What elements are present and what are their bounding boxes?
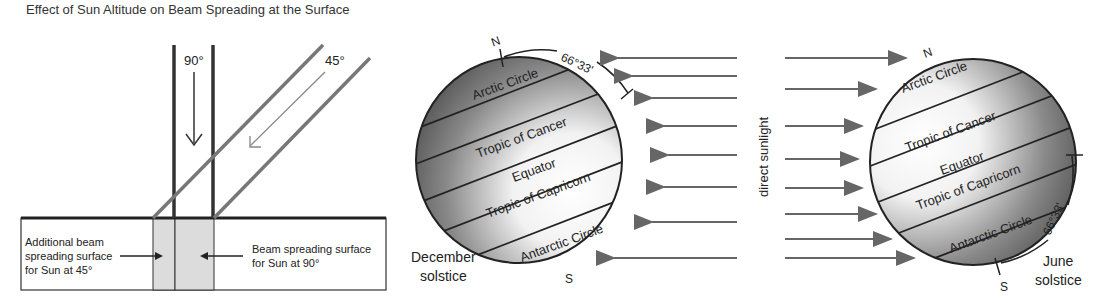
shaded-surface-90 bbox=[175, 218, 214, 290]
diagram-canvas: 90° 45° Additional beam spreading surfac… bbox=[0, 0, 1103, 303]
south-label: S bbox=[565, 272, 573, 286]
june-caption: June bbox=[1043, 253, 1074, 269]
angle-90-label: 90° bbox=[184, 53, 204, 68]
svg-text:solstice: solstice bbox=[1035, 272, 1082, 288]
beam-diagram: 90° 45° Additional beam spreading surfac… bbox=[21, 45, 386, 290]
svg-text:Additional beam: Additional beam bbox=[25, 236, 104, 248]
svg-text:S: S bbox=[1000, 280, 1008, 294]
direct-sunlight-label: direct sunlight bbox=[756, 116, 771, 197]
december-caption: December bbox=[411, 249, 476, 265]
svg-text:spreading surface: spreading surface bbox=[25, 250, 112, 262]
june-globe: Arctic Circle Tropic of Cancer Equator T… bbox=[860, 45, 1090, 294]
svg-text:for Sun at 90°: for Sun at 90° bbox=[252, 257, 319, 269]
sunlight-arrows-left bbox=[614, 58, 737, 258]
svg-text:solstice: solstice bbox=[420, 268, 467, 284]
angle-45-label: 45° bbox=[325, 53, 345, 68]
oblique-beam-right bbox=[214, 58, 370, 218]
svg-text:Beam spreading surface: Beam spreading surface bbox=[252, 243, 371, 255]
north-label: N bbox=[489, 33, 502, 49]
december-globe: Arctic Circle Tropic of Cancer Equator T… bbox=[400, 33, 640, 286]
svg-text:for Sun at 45°: for Sun at 45° bbox=[25, 264, 92, 276]
svg-text:N: N bbox=[921, 45, 934, 61]
